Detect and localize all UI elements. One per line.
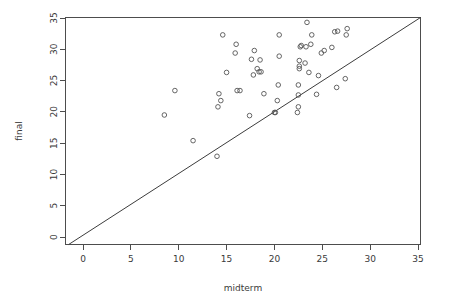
data-point: [277, 33, 282, 38]
data-point: [296, 83, 301, 88]
data-point: [307, 70, 312, 75]
y-axis-ticks: [60, 18, 66, 237]
data-point: [335, 29, 340, 34]
data-point: [344, 33, 349, 38]
data-point: [247, 113, 252, 118]
data-point: [277, 54, 282, 59]
y-axis-tick-labels: 05101520253035: [49, 12, 59, 240]
data-point: [297, 58, 302, 63]
data-point: [322, 48, 327, 53]
x-tick-label: 35: [412, 254, 423, 264]
identity-reference-line: [69, 18, 421, 245]
data-point: [251, 73, 256, 78]
x-tick-label: 20: [269, 254, 281, 264]
x-tick-label: 25: [317, 254, 328, 264]
y-tick-label: 15: [49, 137, 59, 148]
y-tick-label: 25: [49, 75, 59, 86]
x-axis-tick-labels: 05101520253035: [80, 254, 424, 264]
y-tick-label: 0: [49, 234, 59, 240]
data-point: [345, 26, 350, 31]
x-tick-label: 10: [173, 254, 185, 264]
data-point: [295, 110, 300, 115]
data-point: [233, 51, 238, 56]
data-point: [330, 45, 335, 50]
data-point: [262, 91, 267, 96]
x-tick-label: 30: [364, 254, 376, 264]
y-tick-label: 30: [49, 43, 59, 55]
data-point: [334, 85, 339, 90]
x-tick-label: 15: [221, 254, 232, 264]
data-point: [304, 44, 309, 49]
x-axis-title: midterm: [224, 283, 262, 293]
plot-canvas: 05101520253035 05101520253035 midterm fi…: [0, 0, 456, 302]
data-point: [258, 58, 263, 63]
data-point: [276, 83, 281, 88]
data-point: [309, 33, 314, 38]
data-point: [162, 113, 167, 118]
y-tick-label: 10: [49, 168, 59, 180]
data-point: [216, 105, 221, 110]
data-point: [319, 51, 324, 56]
x-axis-ticks: [83, 245, 418, 251]
data-point: [224, 70, 229, 75]
data-point: [252, 48, 257, 53]
data-point: [217, 91, 222, 96]
data-point: [299, 43, 304, 48]
identity-line: [69, 18, 421, 245]
scatter-plot-figure: 05101520253035 05101520253035 midterm fi…: [0, 0, 456, 302]
y-tick-label: 35: [49, 12, 59, 23]
data-point: [314, 92, 319, 97]
y-axis-title: final: [14, 121, 24, 140]
data-point: [343, 76, 348, 81]
data-point: [191, 138, 196, 143]
data-point: [296, 105, 301, 110]
x-tick-label: 5: [128, 254, 134, 264]
data-point: [309, 42, 314, 47]
data-point: [234, 42, 239, 47]
data-point: [215, 154, 220, 159]
y-tick-label: 5: [49, 203, 59, 209]
data-point: [305, 20, 310, 25]
data-point: [219, 98, 224, 103]
data-point: [249, 57, 254, 62]
data-point: [316, 73, 321, 78]
data-point: [275, 98, 280, 103]
data-point: [173, 88, 178, 93]
data-point: [220, 33, 225, 38]
y-tick-label: 20: [49, 106, 59, 118]
data-point: [303, 61, 308, 66]
x-tick-label: 0: [80, 254, 86, 264]
data-point: [238, 88, 243, 93]
data-points: [162, 20, 349, 159]
